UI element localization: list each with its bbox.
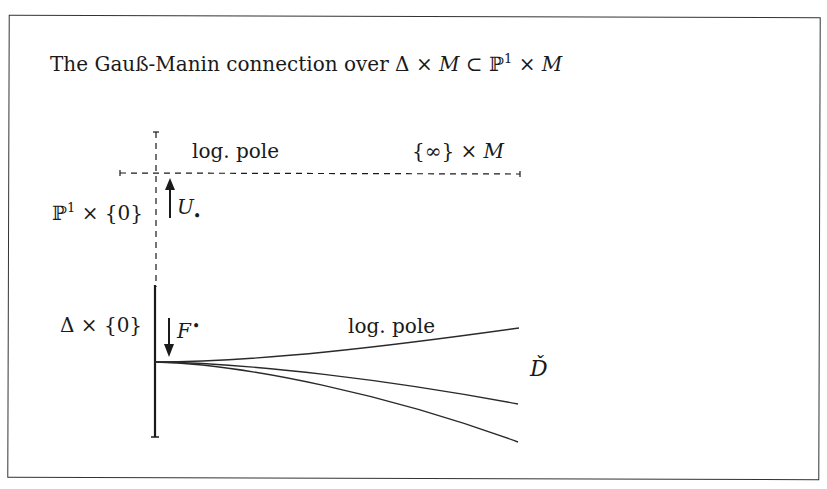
up-arrow-icon (165, 178, 175, 190)
top-log-pole-label: log. pole (192, 139, 279, 163)
f-filtration-label: F (176, 319, 192, 343)
middle-curve (155, 362, 518, 404)
infinity-times-m-label: {∞} × M (412, 139, 505, 163)
down-arrow-icon (164, 344, 174, 357)
lower-curve (155, 362, 518, 442)
f-upper-dot: • (192, 318, 200, 334)
infinity-horizontal-dashed-line (120, 173, 520, 174)
gauss-manin-diagram: The Gauß-Manin connection over Δ × M ⊂ ℙ… (0, 0, 827, 489)
log-pole-curve (155, 328, 519, 362)
d-check-label: Ď (529, 355, 548, 381)
p1-times-zero-label: ℙ1 × {0} (52, 200, 143, 225)
diagram-title: The Gauß-Manin connection over Δ × M ⊂ ℙ… (50, 51, 563, 76)
delta-times-zero-label: Δ × {0} (60, 313, 142, 337)
u-lower-dot: • (193, 208, 201, 224)
lower-log-pole-label: log. pole (348, 314, 435, 338)
